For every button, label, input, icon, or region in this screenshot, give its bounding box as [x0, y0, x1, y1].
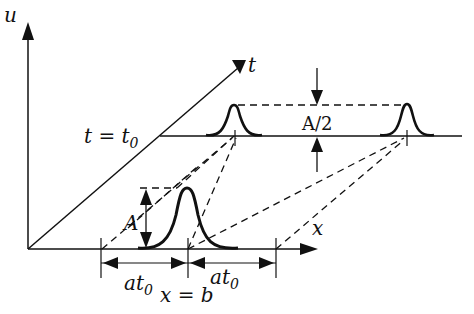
- u-axis: u: [4, 3, 34, 249]
- left-moving-pulse: [206, 105, 262, 135]
- amplitude-A-label: A: [122, 211, 138, 235]
- time-t0-line: t = t0: [84, 124, 462, 151]
- amplitude-half-label: A/2: [301, 113, 333, 134]
- distance-left-label: at0: [124, 271, 153, 298]
- arrow-up-icon: [311, 137, 323, 152]
- t-axis-label: t: [248, 53, 257, 77]
- wave-splitting-diagram: u t x t = t0: [0, 0, 474, 314]
- x-axis-label: x: [312, 216, 323, 240]
- amplitude-A-indicator: A: [122, 189, 152, 248]
- svg-text:t = t0: t = t0: [84, 124, 139, 151]
- u-axis-arrow-icon: [22, 22, 34, 40]
- position-label: x = b: [160, 283, 214, 307]
- arrow-down-icon: [140, 232, 152, 248]
- amplitude-half-indicator: A/2: [301, 68, 333, 172]
- time-line-label: t = t: [84, 124, 131, 148]
- projection-lines: [102, 105, 405, 249]
- x-axis-arrow-icon: [300, 243, 318, 255]
- t-axis: t: [28, 53, 257, 249]
- u-axis-label: u: [4, 3, 17, 27]
- arrow-up-icon: [140, 189, 152, 205]
- distance-right-label: at0: [210, 265, 239, 292]
- time-line-subscript: 0: [130, 135, 139, 151]
- arrow-down-icon: [311, 90, 323, 105]
